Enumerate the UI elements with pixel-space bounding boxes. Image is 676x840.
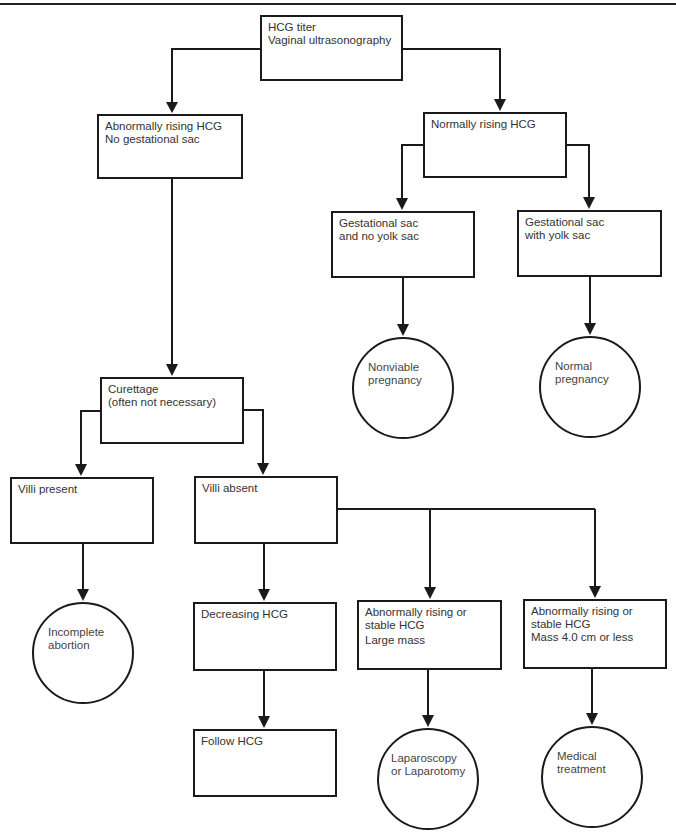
edge-start-to-abnormal-rising — [172, 49, 260, 103]
edge-normal-to-sac-no-yolk — [402, 145, 423, 199]
node-label: Gestational sac and no yolk sac — [339, 217, 467, 243]
node-curettage: Curettage (often not necessary) — [100, 377, 244, 444]
edge-curettage-to-villi-present — [81, 411, 100, 465]
node-label: Normal pregnancy — [555, 360, 609, 386]
node-label: Medical treatment — [557, 750, 606, 776]
node-label: Abnormally rising HCG No gestational sac — [105, 120, 235, 146]
edge-normal-to-sac-with-yolk — [566, 145, 589, 198]
node-nonviable-pregnancy: Nonviable pregnancy — [352, 337, 454, 439]
node-label: HCG titer Vaginal ultrasonography — [268, 21, 395, 47]
node-label: Villi absent — [202, 482, 330, 495]
node-abnormally-rising-hcg: Abnormally rising HCG No gestational sac — [97, 114, 243, 179]
node-laparoscopy-laparotomy: Laparoscopy or Laparotomy — [377, 728, 479, 830]
node-large-mass: Abnormally rising or stable HCG Large ma… — [357, 600, 502, 670]
node-label: Incomplete abortion — [48, 626, 104, 652]
node-label: Villi present — [18, 483, 146, 496]
edge-curettage-to-villi-absent — [243, 410, 263, 464]
node-gestational-sac-with-yolk: Gestational sac with yolk sac — [517, 210, 662, 277]
node-label: Normally rising HCG — [431, 118, 559, 131]
node-label: Abnormally rising or stable HCG — [365, 606, 494, 632]
node-label: Follow HCG — [201, 735, 329, 748]
node-normal-pregnancy: Normal pregnancy — [539, 336, 641, 438]
node-villi-absent: Villi absent — [194, 476, 338, 544]
node-label: Laparoscopy or Laparotomy — [391, 752, 465, 778]
node-label: Nonviable pregnancy — [368, 361, 422, 387]
node-decreasing-hcg: Decreasing HCG — [193, 602, 337, 671]
node-normally-rising-hcg: Normally rising HCG — [423, 112, 567, 178]
flowchart-canvas: HCG titer Vaginal ultrasonography Abnorm… — [0, 0, 676, 840]
node-label: Curettage (often not necessary) — [108, 383, 236, 409]
node-label: Abnormally rising or stable HCG Mass 4.0… — [531, 605, 659, 644]
node-incomplete-abortion: Incomplete abortion — [32, 602, 134, 704]
edge-start-to-normal-rising — [402, 49, 500, 100]
node-hcg-titer-ultrasonography: HCG titer Vaginal ultrasonography — [260, 15, 403, 81]
node-villi-present: Villi present — [10, 477, 154, 544]
node-follow-hcg: Follow HCG — [193, 729, 337, 797]
node-label-secondary: Large mass — [365, 634, 494, 647]
node-small-mass: Abnormally rising or stable HCG Mass 4.0… — [523, 599, 667, 669]
node-label: Decreasing HCG — [201, 608, 329, 621]
node-label: Gestational sac with yolk sac — [525, 216, 654, 242]
node-medical-treatment: Medical treatment — [541, 726, 643, 828]
node-gestational-sac-no-yolk: Gestational sac and no yolk sac — [331, 211, 475, 278]
